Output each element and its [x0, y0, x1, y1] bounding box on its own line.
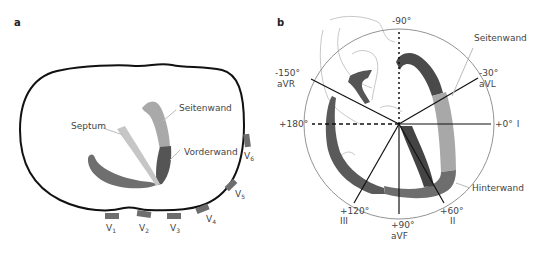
- thorax-outline: [20, 64, 244, 210]
- axis-label-plus90: +90°: [391, 220, 415, 230]
- electrode-v6: [243, 134, 251, 148]
- lateral-wall-a: [142, 101, 170, 150]
- electrode-label-v1: V1: [106, 223, 116, 234]
- heart-cross-section-a: [88, 101, 180, 188]
- electrode-label-v5: V5: [235, 189, 245, 200]
- heart-cross-section-b: [326, 53, 456, 198]
- label-hinterwand: Hinterwand: [472, 183, 524, 193]
- lv-upper-wall-b: [396, 53, 443, 96]
- rv-wall-b: [326, 96, 385, 194]
- axis-label-avl: aVL: [479, 79, 496, 89]
- anterior-wall-a: [156, 146, 171, 185]
- panel-b-label: b: [277, 17, 284, 28]
- electrode-v2: [137, 210, 152, 218]
- lower-outline: [340, 152, 355, 156]
- electrode-label-v3: V3: [170, 223, 180, 234]
- lateral-leader-a: [163, 110, 176, 121]
- anterior-leader-a: [170, 150, 180, 160]
- electrode-v1: [105, 213, 119, 219]
- electrode-label-v2: V2: [139, 223, 149, 234]
- panel-a-label: a: [14, 17, 21, 28]
- axis-label-avr: aVR: [277, 79, 295, 89]
- axis-label-iii: III: [340, 216, 348, 226]
- label-seitenwand-a: Seitenwand: [179, 103, 232, 113]
- lateral-leader-b: [452, 48, 473, 96]
- label-vorderwand: Vorderwand: [184, 147, 238, 157]
- axis-label-ii: II: [450, 216, 455, 226]
- axis-label-0: +0°I: [495, 119, 519, 129]
- electrode-labels: V1 V2 V3 V4 V5 V6: [106, 151, 254, 234]
- axis-label-minus90: -90°: [392, 16, 411, 26]
- electrode-label-v6: V6: [244, 151, 254, 162]
- inferior-leader-b: [456, 183, 470, 188]
- label-seitenwand-b: Seitenwand: [474, 33, 527, 43]
- lateral-wall-b: [432, 92, 456, 172]
- electrode-v3: [167, 213, 181, 219]
- label-septum: Septum: [71, 121, 106, 131]
- axis-label-plus180: +180°: [279, 119, 308, 129]
- ecg-diagram: a Septum Seitenwand Vorderwand V1 V2 V3 …: [0, 0, 535, 253]
- axis-label-minus30: -30°: [479, 68, 498, 78]
- axis-label-minus150: -150°: [275, 68, 300, 78]
- axis-label-plus60: +60°: [440, 206, 464, 216]
- electrode-label-v4: V4: [206, 214, 216, 225]
- axis-label-plus120: +120°: [340, 206, 369, 216]
- axis-label-avf: aVF: [391, 231, 408, 241]
